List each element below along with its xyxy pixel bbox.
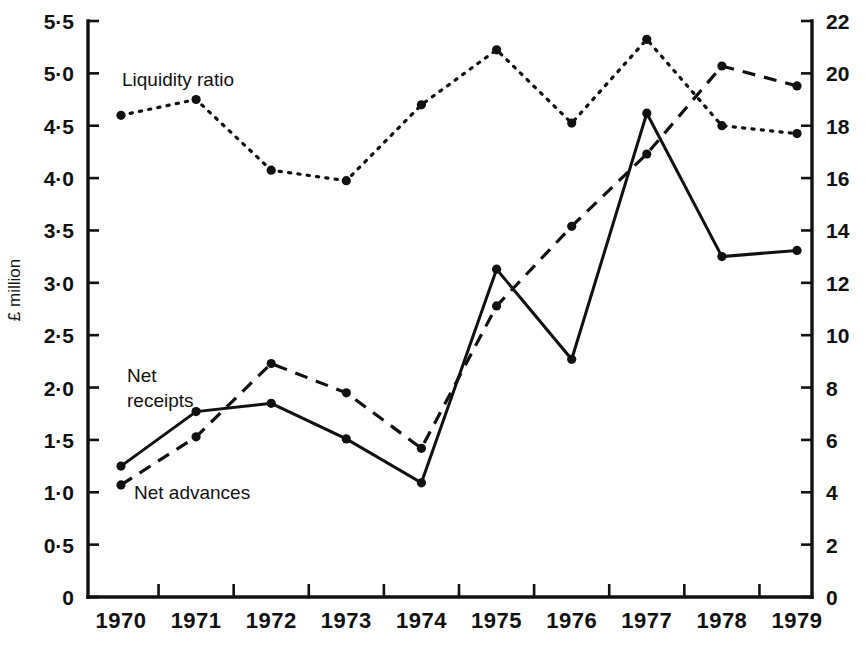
x-axis-ticks bbox=[159, 584, 760, 597]
x-tick-label: 1975 bbox=[471, 608, 522, 633]
data-point-liquidity-ratio bbox=[192, 95, 201, 104]
series-lines bbox=[121, 39, 797, 485]
left-tick-label: 3·5 bbox=[44, 219, 75, 242]
right-tick-label: 2 bbox=[826, 534, 838, 557]
data-point-net-receipts bbox=[267, 399, 276, 408]
right-tick-label: 22 bbox=[826, 10, 849, 33]
data-point-liquidity-ratio bbox=[792, 129, 801, 138]
left-tick-label: 0·5 bbox=[44, 534, 75, 557]
series-label-net-advances: Net advances bbox=[134, 482, 250, 503]
x-tick-label: 1970 bbox=[96, 608, 147, 633]
right-tick-label: 8 bbox=[826, 377, 838, 400]
series-line-net-receipts bbox=[121, 113, 797, 483]
left-tick-label: 4·0 bbox=[44, 167, 74, 190]
x-axis-tick-labels: 1970197119721973197419751976197719781979 bbox=[96, 608, 823, 633]
data-point-net-advances bbox=[492, 301, 501, 310]
x-tick-label: 1974 bbox=[396, 608, 447, 633]
right-axis-tick-labels: 0246810121416182022 bbox=[826, 10, 850, 609]
left-tick-label: 1·5 bbox=[44, 429, 75, 452]
x-tick-label: 1978 bbox=[696, 608, 747, 633]
data-point-net-receipts bbox=[717, 252, 726, 261]
right-tick-label: 16 bbox=[826, 167, 849, 190]
data-point-net-advances bbox=[417, 444, 426, 453]
data-point-liquidity-ratio bbox=[417, 100, 426, 109]
data-point-liquidity-ratio bbox=[267, 166, 276, 175]
data-point-liquidity-ratio bbox=[342, 176, 351, 185]
chart-container: 00·51·01·52·02·53·03·54·04·55·05·5 02468… bbox=[0, 0, 865, 646]
left-tick-label: 2·5 bbox=[44, 324, 75, 347]
data-point-net-advances bbox=[567, 222, 576, 231]
data-point-net-receipts bbox=[642, 109, 651, 118]
left-tick-label: 3·0 bbox=[44, 272, 74, 295]
data-point-net-advances bbox=[267, 359, 276, 368]
right-tick-label: 4 bbox=[826, 481, 838, 504]
left-tick-label: 5·5 bbox=[44, 10, 75, 33]
right-tick-label: 0 bbox=[826, 586, 838, 609]
data-point-net-advances bbox=[717, 61, 726, 70]
data-point-net-advances bbox=[642, 149, 651, 158]
data-point-net-advances bbox=[792, 81, 801, 90]
data-point-net-receipts bbox=[567, 355, 576, 364]
x-tick-label: 1973 bbox=[321, 608, 372, 633]
left-tick-label: 1·0 bbox=[44, 481, 74, 504]
series-data-points bbox=[116, 35, 801, 490]
left-tick-label: 2·0 bbox=[44, 377, 74, 400]
left-tick-label: 4·5 bbox=[44, 115, 75, 138]
series-line-net-advances bbox=[121, 66, 797, 485]
data-point-net-advances bbox=[116, 480, 125, 489]
data-point-net-advances bbox=[342, 388, 351, 397]
data-point-net-receipts bbox=[116, 462, 125, 471]
left-tick-label: 0 bbox=[62, 586, 74, 609]
right-tick-label: 10 bbox=[826, 324, 849, 347]
data-point-liquidity-ratio bbox=[717, 121, 726, 130]
y-axis-title: £ million bbox=[5, 259, 24, 321]
left-tick-label: 5·0 bbox=[44, 62, 74, 85]
right-tick-label: 18 bbox=[826, 115, 850, 138]
data-point-net-receipts bbox=[792, 246, 801, 255]
series-label-net-receipts-line1: Net bbox=[127, 365, 157, 386]
x-tick-label: 1972 bbox=[246, 608, 297, 633]
right-tick-label: 12 bbox=[826, 272, 849, 295]
data-point-liquidity-ratio bbox=[567, 119, 576, 128]
data-point-net-advances bbox=[192, 432, 201, 441]
x-tick-label: 1976 bbox=[546, 608, 597, 633]
right-tick-label: 6 bbox=[826, 429, 838, 452]
series-label-liquidity-ratio: Liquidity ratio bbox=[122, 69, 234, 90]
right-tick-label: 14 bbox=[826, 219, 850, 242]
series-line-liquidity-ratio bbox=[121, 39, 797, 180]
data-point-net-receipts bbox=[342, 434, 351, 443]
plot-axes bbox=[88, 21, 812, 597]
right-tick-label: 20 bbox=[826, 62, 849, 85]
x-tick-label: 1971 bbox=[171, 608, 222, 633]
left-axis-tick-labels: 00·51·01·52·02·53·03·54·04·55·05·5 bbox=[44, 10, 75, 609]
data-point-liquidity-ratio bbox=[492, 45, 501, 54]
x-tick-label: 1977 bbox=[621, 608, 672, 633]
data-point-liquidity-ratio bbox=[116, 111, 125, 120]
data-point-net-receipts bbox=[492, 265, 501, 274]
x-tick-label: 1979 bbox=[772, 608, 823, 633]
series-label-net-receipts-line2: receipts bbox=[127, 390, 194, 411]
data-point-liquidity-ratio bbox=[642, 35, 651, 44]
line-chart: 00·51·01·52·02·53·03·54·04·55·05·5 02468… bbox=[0, 0, 865, 646]
data-point-net-receipts bbox=[417, 478, 426, 487]
